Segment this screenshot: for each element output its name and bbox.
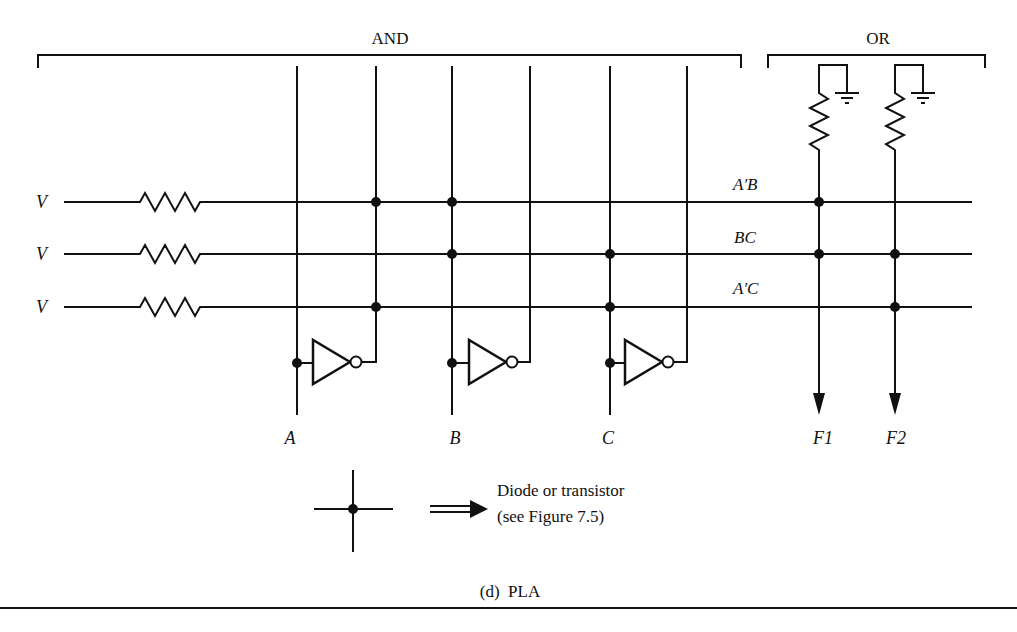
term-label-a-not-c: A′C xyxy=(732,279,759,298)
legend-line-2: (see Figure 7.5) xyxy=(497,507,604,526)
inverter-a xyxy=(297,340,376,384)
and-connection-dot xyxy=(447,249,457,259)
arrow-down-icon xyxy=(813,393,825,415)
legend-dot xyxy=(348,504,358,514)
legend-line-1: Diode or transistor xyxy=(497,481,625,500)
or-section-label: OR xyxy=(866,29,890,48)
or-connection-dot xyxy=(890,302,900,312)
and-bracket xyxy=(38,55,741,67)
and-section-label: AND xyxy=(372,29,409,48)
and-connection-dot xyxy=(605,249,615,259)
input-label-a: A xyxy=(284,428,297,448)
row-2-line xyxy=(64,245,972,263)
row-3-source-label: V xyxy=(36,297,49,317)
term-label-bc: BC xyxy=(734,228,756,247)
and-connection-dot xyxy=(605,302,615,312)
and-connection-dot xyxy=(447,197,457,207)
output-label-f2: F2 xyxy=(885,428,906,448)
and-connection-dot xyxy=(371,197,381,207)
row-2-source-label: V xyxy=(36,244,49,264)
output-f2-column xyxy=(886,65,935,405)
input-branch-dot xyxy=(447,358,457,368)
output-f1-column xyxy=(810,65,859,405)
and-connection-dot xyxy=(371,302,381,312)
row-3-line xyxy=(64,298,972,316)
output-label-f1: F1 xyxy=(812,428,833,448)
input-branch-dot xyxy=(605,358,615,368)
row-1-line xyxy=(64,193,972,211)
figure-caption: (d) PLA xyxy=(480,582,541,601)
input-label-c: C xyxy=(602,428,615,448)
inverter-b xyxy=(452,340,530,384)
or-connection-dot xyxy=(814,197,824,207)
or-connection-dot xyxy=(890,249,900,259)
double-arrow-icon xyxy=(430,500,488,518)
input-branch-dot xyxy=(292,358,302,368)
or-bracket xyxy=(768,55,985,67)
arrow-down-icon xyxy=(889,393,901,415)
term-label-a-not-b: A′B xyxy=(732,175,758,194)
input-label-b: B xyxy=(450,428,461,448)
pla-diagram: AND OR V V V A′B BC A′C xyxy=(0,0,1017,632)
row-1-source-label: V xyxy=(36,192,49,212)
inverter-c xyxy=(610,340,687,384)
or-connection-dot xyxy=(814,249,824,259)
